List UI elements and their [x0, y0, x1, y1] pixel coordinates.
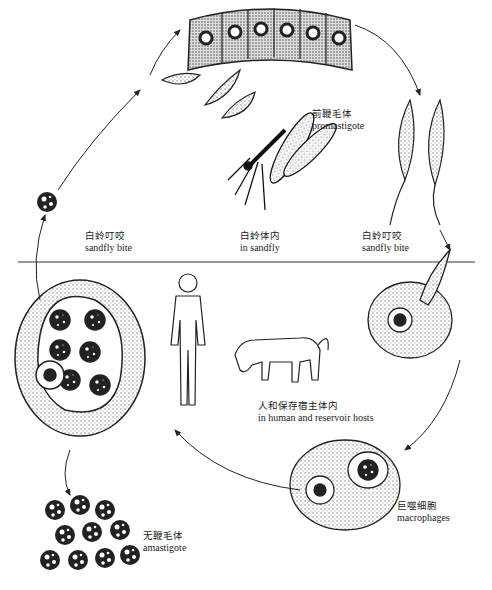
macrophage-invasion — [368, 250, 452, 358]
life-cycle-diagram: 白蛉叮咬 sandfly bite 白蛉体内 in sandfly 白蛉叮咬 s… — [0, 0, 492, 590]
label-human-reservoir: 人和保存宿主体内 in human and reservoir hosts — [258, 400, 374, 424]
infected-macrophage — [290, 440, 400, 530]
free-amastigotes — [40, 495, 140, 570]
label-sandfly-bite-left: 白蛉叮咬 sandfly bite — [85, 230, 132, 254]
amastigote-filled-macrophage — [15, 280, 145, 436]
label-promastigote: 前鞭毛体 promastigote — [312, 108, 364, 132]
human-figure-icon — [171, 274, 205, 405]
promastigotes-in-gut — [162, 70, 255, 118]
label-sandfly-bite-right: 白蛉叮咬 sandfly bite — [362, 230, 409, 254]
gut-epithelium — [188, 8, 352, 70]
label-amastigote: 无鞭毛体 amastigote — [143, 530, 186, 554]
dog-figure-icon — [235, 338, 328, 382]
label-macrophages: 巨噬细胞 macrophages — [397, 500, 450, 524]
promastigote-cells — [390, 100, 444, 225]
label-in-sandfly: 白蛉体内 in sandfly — [240, 230, 280, 254]
